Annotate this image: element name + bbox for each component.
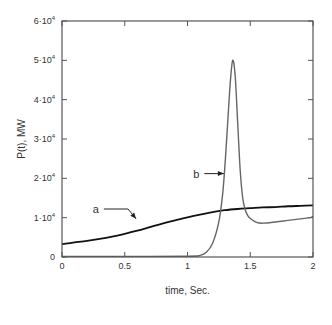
y-tick-label: 6·104 bbox=[34, 15, 56, 26]
curve-annotations: ab bbox=[93, 168, 224, 219]
x-tick-label: 2 bbox=[310, 261, 315, 271]
series-line-b bbox=[62, 60, 313, 256]
annotation-label-b: b bbox=[193, 168, 199, 180]
series-line-a bbox=[62, 205, 313, 244]
y-tick-label: 5·104 bbox=[34, 54, 56, 65]
x-tick-label: 1.5 bbox=[244, 261, 257, 271]
y-tick-label: 3·104 bbox=[34, 133, 56, 144]
x-tick-label: 0 bbox=[59, 261, 64, 271]
x-tick-label: 1 bbox=[185, 261, 190, 271]
y-tick-label: 0 bbox=[50, 252, 55, 262]
arrow-head-icon bbox=[218, 171, 224, 176]
power-time-chart: 01·1042·1043·1044·1045·1046·104 00.511.5… bbox=[0, 0, 332, 325]
y-tick-label: 2·104 bbox=[34, 172, 56, 183]
series-lines bbox=[62, 60, 313, 256]
y-tick-label: 1·104 bbox=[34, 212, 56, 223]
x-axis-label: time, Sec. bbox=[165, 285, 209, 296]
annotation-label-a: a bbox=[93, 203, 100, 215]
annotation-arrow-a bbox=[104, 209, 136, 219]
x-tick-label: 0.5 bbox=[118, 261, 131, 271]
y-tick-labels: 01·1042·1043·1044·1045·1046·104 bbox=[34, 15, 56, 262]
y-tick-label: 4·104 bbox=[34, 94, 56, 105]
y-axis-label: P(t), MW bbox=[16, 119, 27, 159]
x-tick-labels: 00.511.52 bbox=[59, 261, 315, 271]
